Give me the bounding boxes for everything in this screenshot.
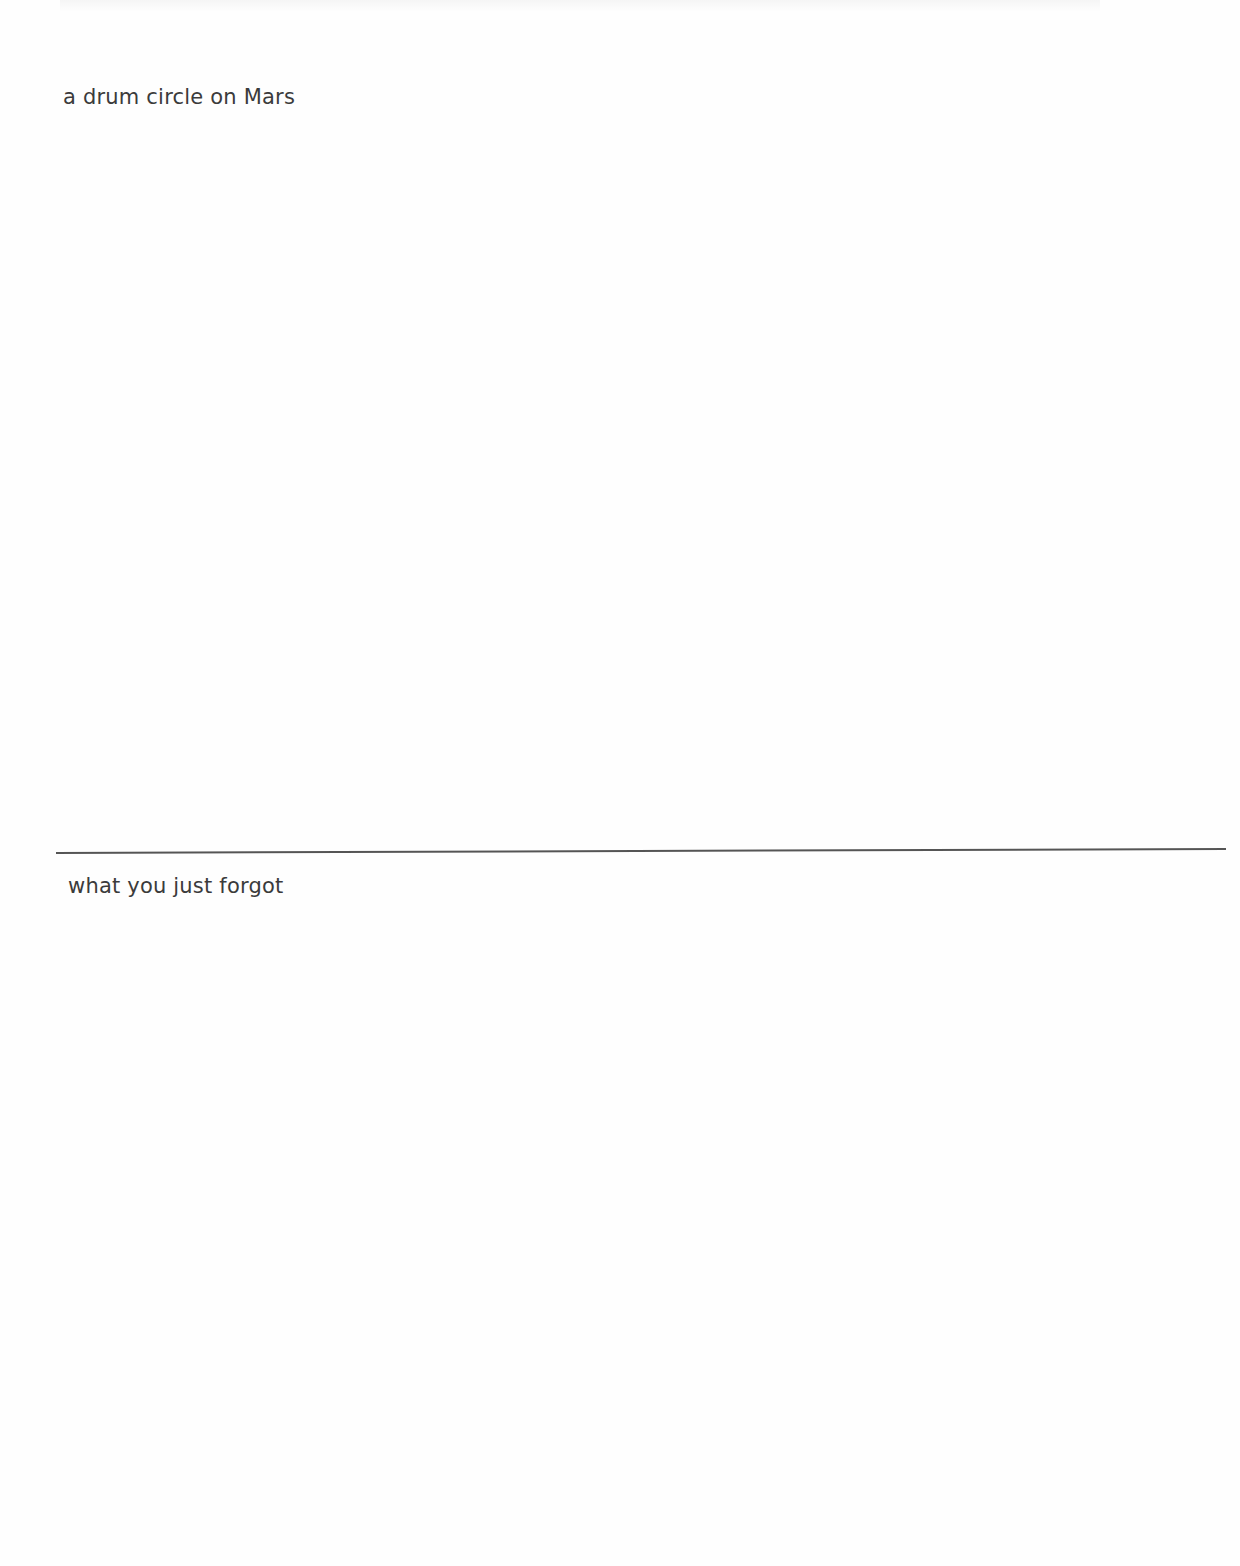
prompt-label: what you just forgot — [68, 874, 283, 898]
drawing-area[interactable] — [56, 125, 1226, 845]
drawing-area[interactable] — [56, 912, 1226, 1552]
section-divider — [56, 848, 1226, 854]
scan-bleed-through — [60, 0, 1100, 12]
prompt-label: a drum circle on Mars — [63, 85, 295, 109]
